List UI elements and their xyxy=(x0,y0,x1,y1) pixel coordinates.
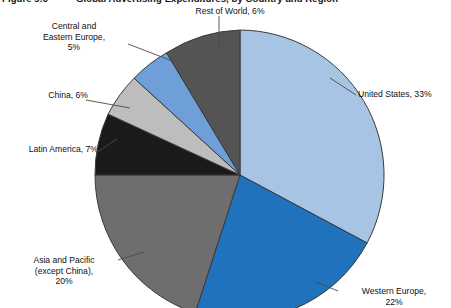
pie-label-rest-of-world: Rest of World, 6% xyxy=(170,6,290,17)
figure-container: Figure 9.6Global Advertising Expenditure… xyxy=(0,0,451,308)
pie-label-united-states: United States, 33% xyxy=(358,89,450,100)
pie-label-western-europe: Western Europe, 22% xyxy=(340,286,448,307)
pie-label-china: China, 6% xyxy=(10,90,88,101)
pie-slices xyxy=(95,30,384,308)
pie-label-central-eastern-europe: Central and Eastern Europe, 5% xyxy=(18,21,130,53)
pie-label-latin-america: Latin America, 7% xyxy=(2,144,98,155)
pie-label-asia-pacific: Asia and Pacific (except China), 20% xyxy=(14,255,114,287)
